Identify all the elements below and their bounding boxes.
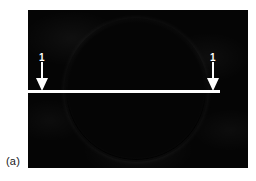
- interferogram-image: 1 1: [28, 10, 248, 168]
- profile-scan-line: [28, 90, 220, 93]
- figure-panel-a: 1 1 (a): [0, 0, 256, 181]
- arrow-head: [207, 78, 219, 91]
- down-arrow-icon-right: [206, 62, 220, 92]
- panel-label: (a): [6, 155, 20, 167]
- down-arrow-icon-left: [35, 62, 49, 92]
- arrow-head: [36, 78, 48, 91]
